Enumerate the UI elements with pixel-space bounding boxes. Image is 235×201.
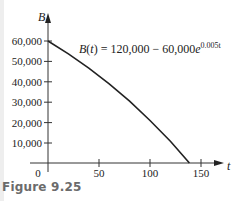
x-tick-label: 100: [142, 167, 159, 179]
y-axis-arrow-icon: [45, 13, 51, 23]
y-tick-label: 10,000: [12, 137, 43, 149]
x-tick-label: 50: [94, 167, 106, 179]
formula-exponent: 0.005t: [201, 41, 222, 50]
x-axis-arrow-icon: [214, 160, 224, 166]
b-of-t-curve: [48, 41, 189, 163]
x-tick-labels: 0 50 100 150: [35, 167, 210, 179]
y-tick-label: 40,000: [12, 76, 43, 88]
chart: B t 60,000 50,000 40,000 30,000 20,000 1…: [0, 0, 235, 201]
formula-annotation: B(t) = 120,000 − 60,000e0.005t: [79, 41, 222, 56]
y-tick-label: 60,000: [12, 35, 43, 47]
y-tick-labels: 60,000 50,000 40,000 30,000 20,000 10,00…: [12, 35, 43, 149]
x-tick-label: 0: [35, 167, 41, 179]
figure-caption: Figure 9.25: [2, 180, 82, 194]
y-tick-label: 30,000: [12, 96, 43, 108]
y-axis-label: B: [38, 10, 46, 24]
y-tick-label: 50,000: [12, 55, 43, 67]
y-tick-label: 20,000: [12, 117, 43, 129]
x-tick-label: 150: [193, 167, 210, 179]
x-axis-label: t: [227, 159, 231, 173]
